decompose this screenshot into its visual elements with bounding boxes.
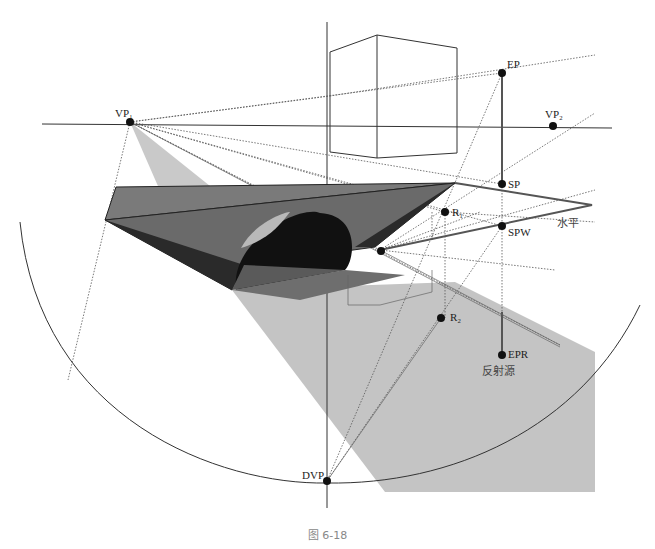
epr-point: [498, 351, 506, 359]
spw-point: [498, 222, 506, 230]
horizontal-label: 水平: [557, 217, 579, 230]
sp-label: SP: [508, 178, 520, 190]
reflection-source-label: 反射源: [482, 364, 515, 378]
epr-label: EPR: [508, 348, 529, 360]
perspective-diagram: VP₁ VP₂ EP SP SPW R₁ R₂ EPR DVP 水平 反射源: [0, 0, 655, 549]
spw-label: SPW: [508, 226, 531, 238]
cube: [330, 35, 457, 158]
r1-label: R₁: [452, 206, 463, 218]
reflection-beam: [232, 282, 595, 492]
ep-point: [498, 69, 506, 77]
r2-point: [437, 314, 445, 322]
sp-point: [498, 180, 506, 188]
vp1-point: [126, 118, 134, 126]
figure-caption: 图 6-18: [0, 526, 655, 542]
r2-label: R₂: [450, 311, 461, 323]
r1-point: [441, 208, 449, 216]
dvp-label: DVP: [302, 469, 324, 481]
bridge-point: [377, 247, 385, 255]
vp1-label: VP₁: [115, 107, 133, 119]
ep-label: EP: [507, 58, 520, 70]
dvp-point: [323, 477, 331, 485]
vp2-label: VP₂: [545, 108, 563, 120]
vp2-point: [549, 122, 557, 130]
